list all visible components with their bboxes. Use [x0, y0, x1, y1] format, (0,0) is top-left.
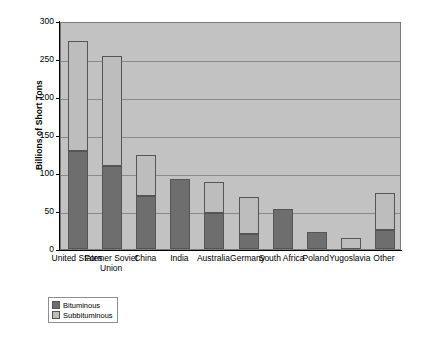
- chart-legend: BituminousSubbituminous: [48, 297, 118, 323]
- y-axis-tick-label: 100: [0, 169, 54, 178]
- bar-segment[interactable]: [239, 197, 259, 234]
- bar-segment[interactable]: [136, 196, 156, 249]
- bar-segment[interactable]: [307, 232, 327, 249]
- bar-segment[interactable]: [68, 41, 88, 151]
- y-axis-tick-mark: [56, 174, 60, 175]
- bar-segment[interactable]: [136, 155, 156, 196]
- y-axis-tick-label: 300: [0, 17, 54, 26]
- legend-swatch-icon: [52, 311, 60, 319]
- bar-segment[interactable]: [204, 182, 224, 213]
- bar-segment[interactable]: [68, 151, 88, 249]
- y-axis-tick-label: 250: [0, 55, 54, 64]
- coal-reserves-stacked-bar-chart: Billions of Short Tons 30025020015010050…: [0, 0, 425, 341]
- y-axis-tick-mark: [56, 60, 60, 61]
- bar-stack[interactable]: [136, 21, 156, 249]
- y-axis-tick-label: 150: [0, 131, 54, 140]
- bar-stack[interactable]: [273, 21, 293, 249]
- bar-stack[interactable]: [307, 21, 327, 249]
- y-axis-tick-mark: [56, 212, 60, 213]
- y-axis-tick-mark: [56, 98, 60, 99]
- bar-segment[interactable]: [204, 213, 224, 249]
- bar-stack[interactable]: [68, 21, 88, 249]
- legend-label: Bituminous: [63, 301, 100, 310]
- y-axis-tick-label: 0: [0, 245, 54, 254]
- bar-segment[interactable]: [375, 193, 395, 230]
- bar-stack[interactable]: [239, 21, 259, 249]
- legend-swatch-icon: [52, 301, 60, 309]
- y-axis-tick-mark: [56, 250, 60, 251]
- bar-stack[interactable]: [102, 21, 122, 249]
- bar-segment[interactable]: [102, 166, 122, 249]
- y-axis-tick-label: 200: [0, 93, 54, 102]
- y-axis-title: Billions of Short Tons: [34, 40, 44, 210]
- y-axis-tick-mark: [56, 22, 60, 23]
- bar-stack[interactable]: [341, 21, 361, 249]
- y-axis-tick-label: 50: [0, 207, 54, 216]
- bar-segment[interactable]: [273, 209, 293, 249]
- bar-segment[interactable]: [375, 230, 395, 249]
- y-axis-tick-mark: [56, 136, 60, 137]
- plot-area: [60, 22, 401, 250]
- x-axis-line: [59, 250, 402, 251]
- bar-stack[interactable]: [375, 21, 395, 249]
- legend-item[interactable]: Bituminous: [52, 300, 113, 310]
- bar-segment[interactable]: [239, 234, 259, 249]
- bar-stack[interactable]: [170, 21, 190, 249]
- bar-stack[interactable]: [204, 21, 224, 249]
- legend-item[interactable]: Subbituminous: [52, 310, 113, 320]
- legend-label: Subbituminous: [63, 311, 113, 320]
- bar-segment[interactable]: [341, 238, 361, 249]
- bar-segment[interactable]: [102, 56, 122, 166]
- x-axis-label: Other: [355, 254, 413, 264]
- bar-segment[interactable]: [170, 179, 190, 249]
